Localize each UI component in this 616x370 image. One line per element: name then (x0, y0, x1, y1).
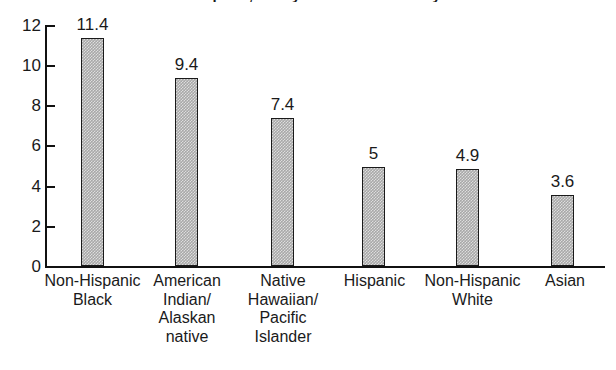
category-label-hispanic: Hispanic (333, 272, 416, 291)
y-tick-label-6: 6 (3, 137, 41, 154)
bar-non-hispanic-black (81, 38, 104, 266)
chart-title-remnant: Rate per 1,000 by Race and Ethnicity (0, 0, 616, 2)
bar-chart: Rate per 1,000 by Race and Ethnicity 12 … (0, 0, 616, 370)
y-tick-label-0: 0 (3, 258, 41, 275)
bar-asian (551, 195, 574, 266)
x-axis-line (45, 266, 605, 268)
y-tick-label-8: 8 (3, 97, 41, 114)
y-tick-12 (47, 25, 55, 27)
y-tick-6 (47, 145, 55, 147)
category-label-asian: Asian (530, 272, 600, 291)
bar-value-non-hispanic-white: 4.9 (438, 147, 497, 164)
bar-value-american-indian-alaskan-native: 9.4 (157, 56, 216, 73)
category-label-non-hispanic-black: Non-Hispanic Black (40, 272, 145, 309)
y-tick-label-12: 12 (3, 17, 41, 34)
category-label-non-hispanic-white: Non-Hispanic White (416, 272, 529, 309)
bar-native-hawaiian-pacific-islander (271, 118, 294, 266)
y-tick-10 (47, 65, 55, 67)
y-tick-2 (47, 226, 55, 228)
category-label-native-hawaiian-pacific-islander: Native Hawaiian/ Pacific Islander (236, 272, 330, 347)
bar-american-indian-alaskan-native (175, 78, 198, 266)
bar-hispanic (362, 167, 385, 266)
y-tick-label-4: 4 (3, 178, 41, 195)
y-tick-4 (47, 186, 55, 188)
bar-value-asian: 3.6 (533, 173, 592, 190)
y-tick-label-10: 10 (3, 57, 41, 74)
bar-value-native-hawaiian-pacific-islander: 7.4 (253, 96, 312, 113)
category-label-american-indian-alaskan-native: American Indian/ Alaskan native (142, 272, 232, 347)
y-tick-label-2: 2 (3, 218, 41, 235)
y-tick-8 (47, 105, 55, 107)
bar-value-non-hispanic-black: 11.4 (63, 16, 122, 33)
bar-value-hispanic: 5 (344, 145, 403, 162)
bar-non-hispanic-white (456, 169, 479, 266)
